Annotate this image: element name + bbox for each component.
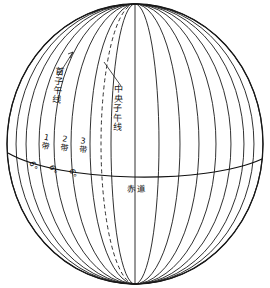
zone-2-label: 2带	[58, 134, 71, 152]
zone-3-width-label: 6°	[67, 168, 78, 179]
zone-3-label: 3带	[77, 136, 89, 154]
equator-label: 赤道	[127, 181, 146, 194]
central-meridian-label: 中央子午线	[112, 84, 122, 132]
globe-meridian-zone-diagram: 首子午线 中央子午线 1带 2带 3带 6° 6° 6° 赤道	[0, 0, 270, 288]
